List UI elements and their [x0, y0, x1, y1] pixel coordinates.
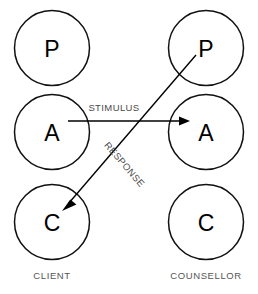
- counsellor-column-label: COUNSELLOR: [170, 270, 241, 281]
- client-parent-letter: P: [44, 36, 59, 62]
- client-adult-letter: A: [44, 120, 60, 146]
- client-child-letter: C: [44, 210, 61, 236]
- client-column-label: CLIENT: [33, 270, 70, 281]
- counsellor-child-letter: C: [198, 210, 215, 236]
- transaction-diagram: P A C P A C RESPONSE STIMULUS: [0, 0, 258, 294]
- counsellor-parent-letter: P: [198, 36, 213, 62]
- counsellor-adult-letter: A: [198, 120, 214, 146]
- stimulus-label: STIMULUS: [88, 102, 139, 113]
- diagram-canvas: P A C P A C RESPONSE STIMULUS: [0, 0, 258, 294]
- counsellor-column: P A C: [169, 11, 244, 260]
- client-column: P A C: [15, 11, 90, 260]
- response-label: RESPONSE: [102, 140, 147, 190]
